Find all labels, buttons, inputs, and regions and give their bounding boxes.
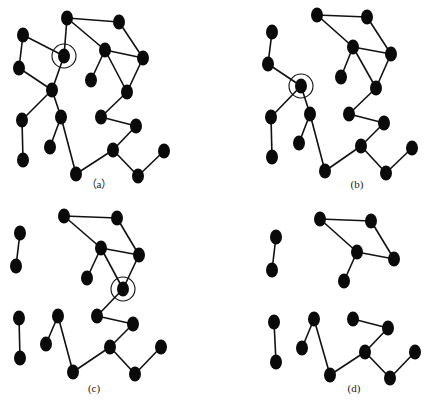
graph-node	[10, 259, 22, 274]
graph-node	[265, 110, 277, 125]
graph-node	[14, 226, 26, 241]
nodes-c	[10, 209, 167, 382]
graph-node	[81, 271, 93, 286]
graph-node	[270, 355, 282, 370]
graph-edge	[61, 117, 76, 174]
graph-node	[55, 110, 67, 125]
graph-node	[111, 211, 123, 226]
graph-node	[133, 248, 145, 263]
graph-edge	[325, 146, 361, 171]
edges-d	[272, 219, 415, 378]
graph-edge	[58, 316, 73, 372]
graph-node	[104, 340, 116, 355]
graph-node	[121, 85, 133, 100]
graph-node	[308, 312, 320, 327]
graph-edge	[320, 219, 357, 252]
graph-node	[355, 139, 367, 154]
graph-edge	[64, 216, 101, 248]
graph-node	[266, 25, 278, 40]
panel-a: （a）	[13, 11, 170, 191]
graph-edge	[310, 114, 325, 171]
graph-node	[130, 119, 142, 134]
graph-node	[46, 83, 58, 98]
graph-node	[359, 345, 371, 360]
graph-node	[13, 61, 25, 76]
graph-node	[347, 40, 359, 55]
graph-edge	[317, 15, 353, 47]
graph-edge	[353, 47, 376, 88]
graph-node	[380, 166, 392, 181]
graph-edge	[105, 50, 127, 92]
panel-d: (d)	[266, 212, 421, 396]
graph-node	[384, 371, 396, 386]
graph-node	[129, 367, 141, 382]
graph-node	[85, 73, 97, 88]
edges-c	[16, 216, 161, 374]
panel-c: (c)	[10, 209, 167, 396]
graph-node	[335, 70, 347, 85]
graph-node	[270, 230, 282, 245]
graph-node	[268, 315, 280, 330]
graph-node	[137, 51, 149, 66]
graph-node	[58, 49, 70, 64]
graph-node	[262, 57, 274, 72]
graph-node	[347, 312, 359, 327]
graph-edge	[317, 15, 367, 17]
nodes-b	[262, 8, 418, 181]
graph-diagram: （a） (b) (c) (d)	[0, 0, 429, 404]
graph-node	[13, 311, 25, 326]
graph-node	[388, 252, 400, 267]
graph-node	[266, 150, 278, 165]
graph-node	[343, 107, 355, 122]
graph-node	[16, 113, 28, 128]
graph-node	[40, 337, 52, 352]
graph-edge	[67, 18, 119, 22]
graph-node	[361, 10, 373, 25]
graph-node	[385, 47, 397, 62]
graph-node	[365, 214, 377, 229]
graph-node	[351, 245, 363, 260]
graph-node	[338, 274, 350, 289]
graph-node	[70, 167, 82, 182]
graph-node	[382, 321, 394, 336]
graph-edge	[67, 18, 105, 50]
graph-node	[117, 282, 129, 297]
graph-edge	[73, 347, 110, 372]
graph-node	[58, 209, 70, 224]
graph-edge	[76, 150, 113, 174]
graph-node	[61, 11, 73, 26]
panel-b: (b)	[262, 8, 418, 192]
graph-node	[296, 341, 308, 356]
graph-edge	[64, 216, 117, 218]
graph-node	[409, 345, 421, 360]
graph-node	[95, 110, 107, 125]
nodes-d	[266, 212, 421, 386]
graph-node	[52, 309, 64, 324]
graph-node	[127, 317, 139, 332]
graph-node	[266, 263, 278, 278]
graph-node	[99, 43, 111, 58]
graph-node	[324, 368, 336, 383]
panel-label: (b)	[351, 178, 364, 191]
graph-node	[319, 164, 331, 179]
graph-node	[44, 140, 56, 155]
graph-node	[311, 8, 323, 23]
graph-node	[155, 340, 167, 355]
panel-label: （a）	[86, 178, 113, 190]
edges-a	[19, 18, 164, 176]
nodes-a	[13, 11, 170, 184]
graph-node	[295, 79, 307, 94]
graph-node	[378, 116, 390, 131]
graph-node	[17, 153, 29, 168]
graph-node	[17, 28, 29, 43]
graph-node	[14, 351, 26, 366]
graph-node	[293, 136, 305, 151]
graph-node	[91, 309, 103, 324]
graph-node	[304, 107, 316, 122]
graph-node	[67, 365, 79, 380]
graph-edge	[320, 219, 371, 221]
edges-b	[268, 15, 412, 173]
graph-edge	[314, 319, 330, 375]
graph-node	[406, 141, 418, 156]
graph-node	[107, 143, 119, 158]
